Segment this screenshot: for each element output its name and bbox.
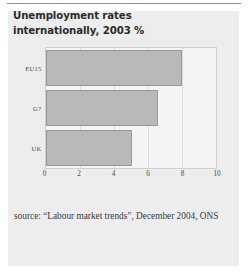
- xtick-label-4: 4: [112, 170, 116, 178]
- bar-eu15: EU15: [46, 50, 182, 85]
- xtick-label-8: 8: [181, 170, 185, 178]
- gridline-8: [182, 48, 183, 168]
- plot-area: EU15 G7 UK: [45, 47, 218, 169]
- figure-container: Unemployment rates internationally, 2003…: [0, 0, 248, 276]
- chart-title: Unemployment rates internationally, 2003…: [13, 8, 219, 38]
- bar-uk: UK: [46, 130, 133, 165]
- category-label-uk: UK: [32, 144, 42, 151]
- xtick-label-0: 0: [43, 170, 47, 178]
- bar-g7: G7: [46, 90, 159, 125]
- xtick-label-6: 6: [146, 170, 150, 178]
- xtick-label-10: 10: [213, 170, 220, 178]
- xtick-label-2: 2: [77, 170, 81, 178]
- top-rule-divider: [7, 3, 241, 4]
- category-label-g7: G7: [33, 104, 41, 111]
- category-label-eu15: EU15: [25, 64, 41, 71]
- source-note: source: “Labour market trends”, December…: [14, 210, 224, 224]
- bar-chart: EU15 G7 UK 0 2 4 6 8 10: [13, 44, 220, 192]
